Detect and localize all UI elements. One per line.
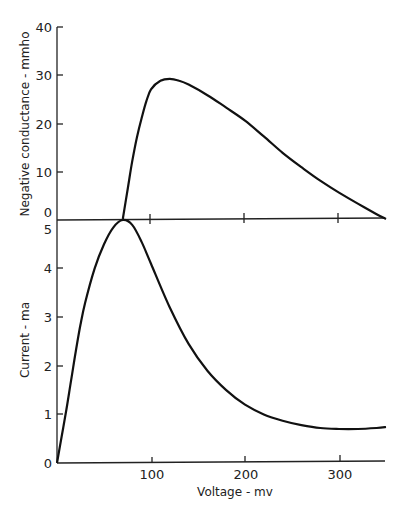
lower-x-ticks: 100 200 300 xyxy=(140,455,353,482)
upper-y-axis-title: Negative conductance - mmho xyxy=(18,32,32,217)
lower-ytick-label: 1 xyxy=(44,407,52,422)
upper-y-ticks: 40 30 20 10 0 xyxy=(35,20,63,220)
upper-ytick-label: 10 xyxy=(35,165,52,180)
upper-ytick-label: 40 xyxy=(35,20,52,35)
lower-ytick-label: 5 xyxy=(44,222,52,237)
xtick-label: 200 xyxy=(234,467,259,482)
upper-x-axis-line xyxy=(57,218,385,220)
lower-ytick-label: 4 xyxy=(44,261,52,276)
lower-y-axis-title: Current - ma xyxy=(18,302,32,378)
upper-ytick-label: 20 xyxy=(35,117,52,132)
lower-y-ticks: 5 4 3 2 1 0 xyxy=(44,222,63,471)
lower-ytick-label: 0 xyxy=(44,456,52,471)
lower-ytick-label: 3 xyxy=(44,310,52,325)
upper-ytick-label: 30 xyxy=(35,68,52,83)
upper-ytick-label: 0 xyxy=(44,205,52,220)
xtick-label: 300 xyxy=(328,467,353,482)
lower-x-axis-line xyxy=(57,461,385,463)
conductance-curve xyxy=(123,79,386,219)
x-axis-title: Voltage - mv xyxy=(197,485,273,499)
chart-figure: 40 30 20 10 0 5 4 3 2 1 0 100 200 300 Ne… xyxy=(0,0,403,510)
xtick-label: 100 xyxy=(140,467,165,482)
current-curve xyxy=(57,220,386,463)
lower-ytick-label: 2 xyxy=(44,359,52,374)
